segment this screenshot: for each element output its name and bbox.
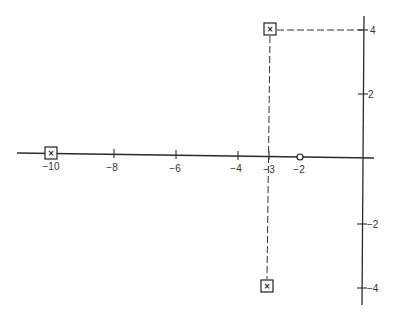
real-axis-labels: −10 −8 −6 −4 −3 −2: [43, 161, 306, 175]
label-real--8: −8: [106, 162, 118, 173]
pole-x-icon: ×: [264, 282, 271, 291]
label-imag-4: 4: [370, 25, 376, 36]
label-real--10: −10: [43, 161, 60, 172]
pole-re-3-im--4: ×: [261, 280, 273, 292]
imaginary-axis-labels: 4 2 −2 −4: [367, 25, 379, 294]
pole-zero-plot: −10 −8 −6 −4 −3 −2 4 2 −2 −4 × × ×: [0, 0, 394, 315]
real-axis: [17, 153, 374, 158]
zero-circle-icon: [297, 154, 303, 160]
pole-re-3-im-4: ×: [264, 23, 276, 35]
pole-x-icon: ×: [48, 149, 55, 158]
label-imag--2: −2: [367, 219, 379, 230]
label-imag-2: 2: [368, 89, 374, 100]
pole-re-10: ×: [45, 147, 57, 159]
label-real--6: −6: [169, 163, 181, 174]
label-imag--4: −4: [367, 283, 379, 294]
label-real--2: −2: [293, 164, 305, 175]
label-real--4: −4: [230, 163, 242, 174]
label-real--3: −3: [263, 164, 275, 175]
pole-x-icon: ×: [267, 25, 274, 34]
imaginary-axis: [362, 16, 364, 305]
